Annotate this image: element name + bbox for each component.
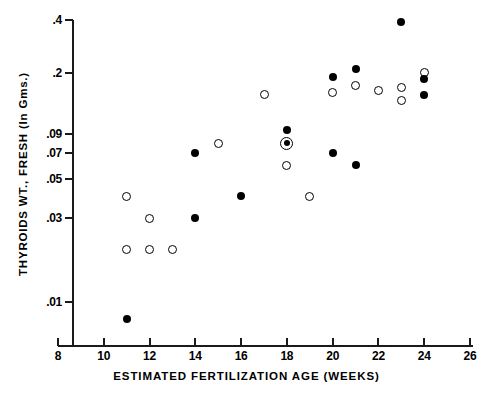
data-point-open [374,86,383,95]
data-point-open [145,245,154,254]
data-point-open [282,161,291,170]
data-point-closed [329,73,337,81]
data-point-open [260,90,269,99]
data-point-open [351,81,360,90]
data-point-open [328,88,337,97]
data-point-closed [329,149,337,157]
data-point-closed [123,315,131,323]
y-axis-title: THYROIDS WT., FRESH (In Gms.) [17,39,29,309]
data-point-closed [420,75,428,83]
x-axis-title: ESTIMATED FERTILIZATION AGE (WEEKS) [0,370,493,382]
data-point-closed [397,18,405,26]
data-point-open [305,192,314,201]
data-point-open [122,192,131,201]
data-point-ringed [280,137,293,150]
data-point-open [168,245,177,254]
data-point-closed [191,149,199,157]
data-point-open [145,214,154,223]
data-point-closed [283,126,291,134]
data-point-open [397,96,406,105]
data-point-closed [237,192,245,200]
data-point-open [122,245,131,254]
data-point-closed [352,161,360,169]
data-point-closed [191,214,199,222]
data-point-open [214,139,223,148]
data-point-closed [352,65,360,73]
data-point-open [397,83,406,92]
scatter-plot-figure: .4.2.09.07.05.03.01 8101214161820222426 … [0,0,493,399]
plot-data-area [0,0,493,399]
data-point-closed [420,91,428,99]
